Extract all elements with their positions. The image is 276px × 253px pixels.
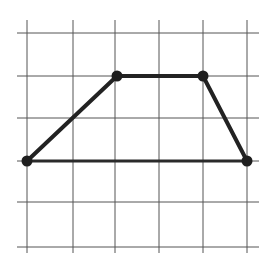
trapezoid-grid-diagram (0, 0, 276, 253)
vertex-B (112, 71, 123, 82)
vertex-D (242, 156, 253, 167)
vertex-C (198, 71, 209, 82)
vertex-A (22, 156, 33, 167)
